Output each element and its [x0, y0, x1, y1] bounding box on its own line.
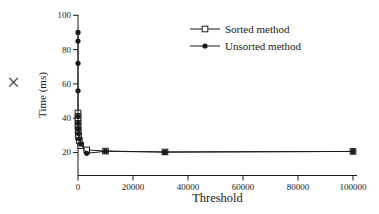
y-axis-title: Time (ms): [36, 72, 49, 118]
chart-canvas: 20406080100020000400006000080000100000Ti…: [0, 0, 379, 214]
data-point-marker: [75, 61, 80, 66]
x-axis-title: Threshold: [192, 191, 243, 205]
x-tick-label: 20000: [122, 182, 145, 192]
data-point-marker: [75, 114, 80, 119]
legend-label: Unsorted method: [225, 40, 302, 52]
legend-marker: [202, 26, 208, 32]
y-tick-label: 40: [62, 113, 72, 123]
data-point-marker: [350, 149, 355, 154]
x-tick-label: 100000: [340, 182, 368, 192]
y-tick-label: 80: [62, 45, 72, 55]
series-line: [78, 113, 353, 152]
y-tick-label: 60: [62, 79, 72, 89]
legend-label: Sorted method: [225, 23, 290, 35]
data-point-marker: [162, 150, 167, 155]
data-point-marker: [75, 38, 80, 43]
series-unsorted: [75, 30, 355, 156]
data-point-marker: [103, 149, 108, 154]
data-point-marker: [76, 131, 81, 136]
x-tick-label: 0: [76, 182, 81, 192]
data-point-marker: [78, 141, 83, 146]
series-line: [78, 32, 353, 153]
y-tick-label: 100: [58, 10, 72, 20]
x-mark-glyph: ×: [7, 71, 20, 94]
legend: Sorted methodUnsorted method: [190, 23, 302, 52]
data-point-marker: [75, 88, 80, 93]
data-point-marker: [76, 126, 81, 131]
x-tick-label: 80000: [287, 182, 310, 192]
y-tick-label: 20: [62, 147, 72, 157]
data-point-marker: [77, 136, 82, 141]
figure-root: × 20406080100020000400006000080000100000…: [0, 0, 379, 214]
data-point-marker: [84, 151, 89, 156]
series-sorted: [75, 110, 356, 155]
data-point-marker: [75, 30, 80, 35]
data-point-marker: [76, 121, 81, 126]
legend-marker: [202, 43, 207, 48]
